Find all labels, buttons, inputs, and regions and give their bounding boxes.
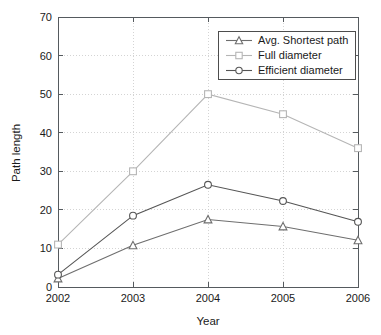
data-point-marker [236, 67, 242, 73]
chart-figure: 010203040506070 20022003200420052006 Avg… [0, 0, 381, 335]
x-tick-labels: 20022003200420052006 [46, 292, 370, 304]
data-point-marker [204, 216, 212, 223]
y-tick-labels: 010203040506070 [40, 11, 52, 293]
y-tick-label: 30 [40, 165, 52, 177]
y-tick-label: 20 [40, 204, 52, 216]
data-point-marker [280, 198, 287, 205]
data-point-marker [205, 181, 212, 188]
data-point-marker [280, 111, 287, 118]
y-tick-label: 50 [40, 88, 52, 100]
data-point-marker [355, 145, 362, 152]
x-tick-label: 2006 [346, 292, 370, 304]
series-line [58, 185, 358, 275]
legend-entry-label: Avg. Shortest path [258, 34, 348, 46]
x-tick-label: 2003 [121, 292, 145, 304]
data-point-marker [236, 52, 242, 58]
x-tick-label: 2004 [196, 292, 220, 304]
y-tick-label: 70 [40, 11, 52, 23]
x-tick-label: 2002 [46, 292, 70, 304]
y-axis-title: Path length [10, 124, 22, 182]
x-tick-label: 2005 [271, 292, 295, 304]
data-point-marker [55, 241, 62, 248]
data-point-marker [55, 271, 62, 278]
y-tick-label: 60 [40, 50, 52, 62]
legend-entry-label: Efficient diameter [258, 64, 343, 76]
data-point-marker [355, 218, 362, 225]
line-chart: 010203040506070 20022003200420052006 Avg… [0, 0, 381, 335]
chart-legend[interactable]: Avg. Shortest pathFull diameterEfficient… [218, 31, 355, 79]
data-point-marker [129, 241, 137, 248]
data-point-marker [205, 91, 212, 98]
data-point-marker [130, 212, 137, 219]
y-tick-label: 10 [40, 242, 52, 254]
x-axis-title: Year [196, 315, 219, 327]
data-point-marker [130, 168, 137, 175]
legend-entry-label: Full diameter [258, 49, 322, 61]
y-tick-label: 40 [40, 127, 52, 139]
